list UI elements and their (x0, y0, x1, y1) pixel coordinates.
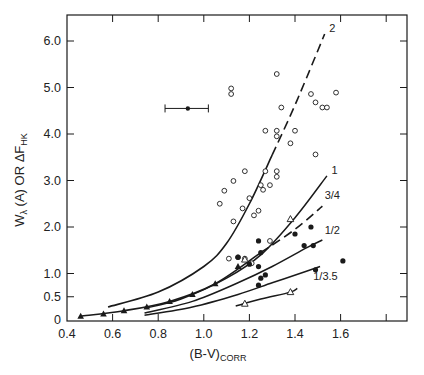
open-circle-point (274, 174, 279, 179)
open-circle-point (263, 128, 268, 133)
open-circle-point (229, 92, 234, 97)
filled-circle-point (311, 243, 316, 248)
open-circle-point (231, 179, 236, 184)
y-tick-label: 1.0 (44, 267, 61, 281)
curve-label: 3/4 (325, 189, 340, 201)
curve-1 (145, 176, 327, 309)
model-curves (81, 34, 327, 316)
curve-label: 1/2 (325, 224, 340, 236)
open-circle-point (279, 105, 284, 110)
open-circle-point (320, 105, 325, 110)
open-circle-point (222, 188, 227, 193)
filled-circle-point (302, 243, 307, 248)
curve-labels: 213/41/21/3.5 (313, 22, 340, 283)
open-circle-point (268, 183, 273, 188)
open-circle-point (247, 196, 252, 201)
axis-ticks: 0.40.60.81.01.21.41.600.51.02.03.04.05.0… (44, 15, 407, 341)
plot-frame (67, 15, 407, 321)
open-circle-point (288, 141, 293, 146)
x-axis-title: (B-V)CORR (190, 346, 247, 363)
curve-label: 1/3.5 (313, 270, 337, 282)
y-tick-label: 6.0 (44, 34, 61, 48)
filled-circle-point (256, 283, 261, 288)
open-circle-point (268, 239, 273, 244)
x-tick-label: 1.6 (332, 327, 349, 341)
open-circle-point (240, 206, 245, 211)
open-circle-point (313, 100, 318, 105)
y-tick-label: 5.0 (44, 81, 61, 95)
open-circle-point (226, 256, 231, 261)
x-tick-label: 0.6 (104, 327, 121, 341)
filled-circle-point (258, 276, 263, 281)
open-circle-point (293, 128, 298, 133)
y-tick-label: 3.0 (44, 174, 61, 188)
y-axis-title: Wλ (A) OR ΔFHK (12, 133, 29, 227)
plot-border (67, 15, 407, 321)
filled-circle-point (235, 255, 240, 260)
curve-label: 1 (331, 164, 337, 176)
open-circle-point (252, 213, 257, 218)
open-circle-point (231, 219, 236, 224)
chart: 0.40.60.81.01.21.41.600.51.02.03.04.05.0… (0, 0, 424, 375)
x-tick-label: 1.2 (241, 327, 258, 341)
open-circle-point (256, 208, 261, 213)
filled-circle-point (308, 224, 313, 229)
open-circle-point (274, 72, 279, 77)
open-circle-point (242, 169, 247, 174)
filled-triangle-point (235, 263, 242, 269)
open-circle-point (274, 128, 279, 133)
error-bar-point (186, 106, 190, 110)
filled-circle-point (340, 258, 345, 263)
filled-circle-point (256, 264, 261, 269)
open-circle-point (261, 187, 266, 192)
open-circle-point (263, 169, 268, 174)
filled-circle-point (256, 238, 261, 243)
open-triangle-point (287, 216, 294, 222)
filled-circle-point (292, 231, 297, 236)
x-tick-label: 1.4 (286, 327, 303, 341)
open-circle-point (217, 201, 222, 206)
open-circle-point (313, 152, 318, 157)
x-tick-label: 0.4 (58, 327, 75, 341)
filled-circle-point (263, 272, 268, 277)
y-tick-label: 0 (54, 313, 61, 327)
open-circle-point (309, 92, 314, 97)
open-circle-point (258, 183, 263, 188)
x-tick-label: 1.0 (195, 327, 212, 341)
x-tick-label: 0.8 (150, 327, 167, 341)
data-points (77, 72, 345, 319)
y-tick-label: 2.0 (44, 220, 61, 234)
filled-circle-point (258, 250, 263, 255)
open-circle-point (334, 90, 339, 95)
y-tick-label: 0.5 (44, 290, 61, 304)
curve-label: 2 (329, 22, 335, 34)
open-circle-point (229, 86, 234, 91)
curve-2-dashed (272, 34, 324, 155)
open-circle-point (274, 169, 279, 174)
y-tick-label: 4.0 (44, 127, 61, 141)
open-circle-point (274, 134, 279, 139)
curve-2-solid (108, 155, 272, 307)
open-circle-point (325, 105, 330, 110)
